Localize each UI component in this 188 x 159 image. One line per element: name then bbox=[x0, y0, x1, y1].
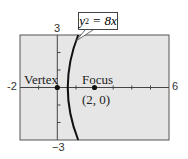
focus-coordinate-label: (2, 0) bbox=[82, 93, 110, 106]
equation-label: y2 = 8x bbox=[78, 12, 118, 30]
x-max-tick-label: 6 bbox=[172, 81, 178, 92]
vertex-label: Vertex bbox=[24, 73, 58, 86]
y-max-tick-label: 3 bbox=[54, 23, 60, 34]
x-min-tick-label: -2 bbox=[7, 81, 17, 92]
equation-rhs: = 8x bbox=[89, 13, 117, 29]
y-min-tick-label: −3 bbox=[52, 142, 65, 153]
focus-label: Focus bbox=[82, 73, 113, 86]
